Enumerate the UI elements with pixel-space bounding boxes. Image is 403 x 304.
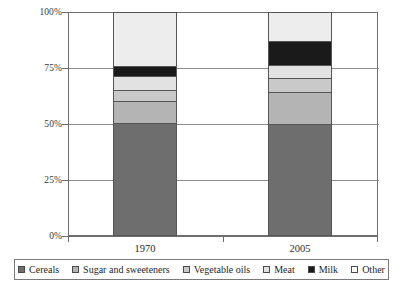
chart-legend: Cereals Sugar and sweeteners Vegetable o… — [14, 259, 389, 280]
y-axis-labels: 100% 75% 50% 25% 0% — [0, 0, 62, 250]
y-axis-label-25: 25% — [4, 175, 62, 185]
legend-swatch-meat-icon — [263, 266, 270, 273]
legend-swatch-other-icon — [351, 266, 358, 273]
legend-swatch-milk-icon — [308, 266, 315, 273]
legend-item-vegetable-oils[interactable]: Vegetable oils — [183, 264, 250, 275]
legend-swatch-vegetable-oils-icon — [183, 266, 190, 273]
legend-item-meat[interactable]: Meat — [263, 264, 295, 275]
bar-1970[interactable] — [113, 12, 177, 236]
legend-item-milk[interactable]: Milk — [308, 264, 338, 275]
y-axis-label-75: 75% — [4, 63, 62, 73]
legend-label-cereals: Cereals — [29, 264, 59, 275]
segment-2005-sugar[interactable] — [268, 92, 332, 124]
legend-swatch-cereals-icon — [18, 266, 25, 273]
legend-label-meat: Meat — [274, 264, 295, 275]
segment-1970-milk[interactable] — [113, 66, 177, 76]
x-tick-left — [68, 236, 69, 242]
legend-swatch-sugar-and-sweeteners-icon — [72, 266, 79, 273]
legend-label-milk: Milk — [319, 264, 338, 275]
segment-2005-meat[interactable] — [268, 65, 332, 78]
legend-label-other: Other — [362, 264, 385, 275]
segment-1970-meat[interactable] — [113, 76, 177, 90]
y-axis-label-100: 100% — [4, 7, 62, 17]
legend-item-other[interactable]: Other — [351, 264, 385, 275]
bar-2005[interactable] — [268, 12, 332, 236]
legend-item-sugar-and-sweeteners[interactable]: Sugar and sweeteners — [72, 264, 170, 275]
x-axis-label-1970: 1970 — [110, 243, 180, 255]
y-axis-line — [68, 12, 69, 237]
segment-2005-cereals[interactable] — [268, 124, 332, 236]
y-axis-label-50: 50% — [4, 119, 62, 129]
x-axis-label-2005: 2005 — [265, 243, 335, 255]
x-tick-right — [377, 236, 378, 242]
legend-label-vegetable-oils: Vegetable oils — [194, 264, 250, 275]
segment-1970-sugar[interactable] — [113, 101, 177, 123]
stacked-bar-chart: 100% 75% 50% 25% 0% 1970 2005 — [0, 0, 403, 304]
x-tick-mid — [223, 236, 224, 242]
segment-2005-other[interactable] — [268, 12, 332, 41]
legend-item-cereals[interactable]: Cereals — [18, 264, 59, 275]
segment-2005-milk[interactable] — [268, 41, 332, 65]
legend-label-sugar-and-sweeteners: Sugar and sweeteners — [83, 264, 170, 275]
segment-2005-vegetable-oils[interactable] — [268, 78, 332, 92]
y-axis-label-0: 0% — [4, 231, 62, 241]
segment-1970-cereals[interactable] — [113, 123, 177, 236]
segment-1970-vegetable-oils[interactable] — [113, 90, 177, 101]
segment-1970-other[interactable] — [113, 12, 177, 66]
